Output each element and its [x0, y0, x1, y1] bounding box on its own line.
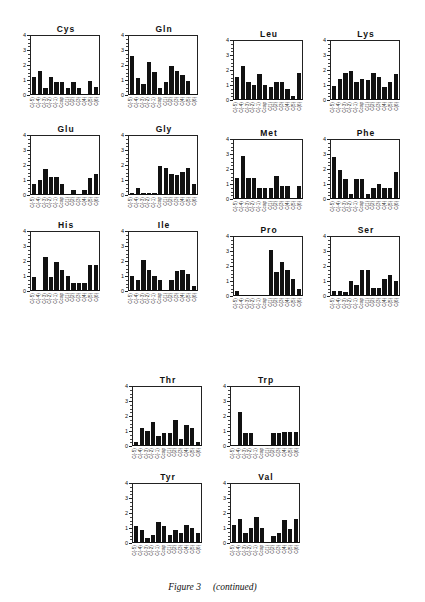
bar-c4 — [382, 188, 386, 198]
bar-c-3 — [141, 84, 145, 94]
bar-c-1 — [257, 188, 261, 198]
y-tick-label: 2 — [116, 258, 124, 264]
x-tick-label: C(-5) — [331, 298, 336, 309]
bar-c5 — [186, 274, 190, 290]
bar-c5 — [190, 528, 194, 543]
bar-c-4 — [38, 71, 42, 94]
bar-series — [332, 41, 398, 99]
x-tick-label: Ccap — [60, 197, 65, 208]
y-tick-label: 3 — [18, 147, 26, 153]
y-tick-label: 1 — [116, 177, 124, 183]
y-tick-label: 3 — [18, 47, 26, 53]
chart-panel-his: His01234C(-5)C(-4)C(-3)C(-2)C(-1)CcapC(1… — [8, 220, 103, 320]
x-tick-label: C(-5) — [31, 197, 36, 208]
bar-c-1 — [152, 276, 156, 291]
y-tick-label: 0 — [218, 443, 226, 449]
y-tick-label: 3 — [221, 151, 229, 157]
bar-series — [134, 387, 200, 445]
bar-ccap — [162, 433, 166, 445]
y-tick-label: 2 — [120, 510, 128, 516]
bar-c4 — [180, 172, 184, 194]
y-tick-label: 4 — [221, 136, 229, 142]
x-axis-labels: C(-5)C(-4)C(-3)C(-2)C(-1)CcapC(1)C(2)C(3… — [129, 97, 197, 108]
y-tick-label: 2 — [116, 162, 124, 168]
bar-c5 — [388, 82, 392, 99]
x-tick-label: C(6) — [193, 197, 198, 208]
x-tick-label: C(5) — [292, 201, 297, 212]
bar-c3 — [277, 533, 281, 542]
bar-c1 — [168, 433, 172, 445]
x-tick-label: Ccap — [263, 201, 268, 212]
y-tick-label: 3 — [116, 47, 124, 53]
plot-area — [132, 386, 202, 446]
figure-caption: Figure 3(continued) — [0, 582, 425, 592]
x-axis-labels: C(-5)C(-4)C(-3)C(-2)C(-1)CcapC(1)C(2)C(3… — [234, 298, 302, 309]
plot-area — [233, 139, 303, 199]
bar-series — [134, 484, 200, 542]
y-tick-label: 1 — [116, 77, 124, 83]
x-tick-label: C(5) — [292, 102, 297, 113]
y-tick-label: 4 — [318, 37, 326, 43]
y-tick-label: 4 — [221, 233, 229, 239]
bar-series — [232, 484, 298, 542]
y-tick-label: 0 — [318, 196, 326, 202]
x-tick-label: C(5) — [289, 545, 294, 556]
bar-c6 — [297, 289, 301, 295]
bar-c6 — [192, 184, 196, 194]
y-tick-label: 4 — [218, 480, 226, 486]
x-tick-label: C(4) — [83, 97, 88, 108]
y-tick-label: 1 — [318, 278, 326, 284]
x-axis-labels: C(-5)C(-4)C(-3)C(-2)C(-1)CcapC(1)C(2)C(3… — [231, 545, 299, 556]
chart-panel-val: Val01234C(-5)C(-4)C(-3)C(-2)C(-1)CcapC(1… — [208, 472, 303, 572]
y-tick-label: 0 — [221, 293, 229, 299]
bar-c-2 — [252, 178, 256, 198]
bar-c3 — [175, 71, 179, 94]
bar-c5 — [388, 188, 392, 198]
bar-c-2 — [151, 535, 155, 542]
bar-c5 — [88, 81, 92, 94]
bar-c3 — [277, 433, 281, 445]
bar-series — [235, 140, 301, 198]
bar-c-4 — [140, 530, 144, 542]
bar-series — [130, 36, 196, 94]
x-tick-label: C(4) — [383, 298, 388, 309]
y-tick-label: 1 — [221, 278, 229, 284]
y-tick-label: 3 — [318, 52, 326, 58]
bar-c-1 — [54, 177, 58, 194]
x-tick-label: C(5) — [187, 97, 192, 108]
bar-ccap — [360, 79, 364, 99]
x-tick-label: C(6) — [95, 293, 100, 304]
bar-c4 — [184, 525, 188, 542]
bar-c1 — [164, 168, 168, 194]
x-tick-label: C(4) — [181, 293, 186, 304]
bar-c6 — [192, 286, 196, 290]
bar-series — [332, 237, 398, 295]
bar-c2 — [371, 188, 375, 198]
bar-c-1 — [257, 74, 261, 99]
bar-c2 — [169, 66, 173, 94]
x-tick-label: C(4) — [83, 293, 88, 304]
x-tick-label: C(-5) — [31, 97, 36, 108]
x-tick-label: C(-5) — [133, 448, 138, 459]
x-tick-label: Ccap — [162, 448, 167, 459]
caption-figure-number: Figure 3 — [168, 582, 201, 592]
bar-series — [235, 41, 301, 99]
x-tick-label: C(-4) — [135, 97, 140, 108]
chart-title: Gly — [128, 124, 200, 134]
x-tick-label: C(5) — [187, 293, 192, 304]
bar-ccap — [263, 188, 267, 198]
x-tick-label: C(-5) — [129, 293, 134, 304]
y-tick-label: 2 — [221, 67, 229, 73]
bar-c1 — [366, 270, 370, 295]
y-tick-label: 3 — [221, 248, 229, 254]
y-tick-label: 1 — [318, 82, 326, 88]
x-tick-label: C(5) — [289, 448, 294, 459]
y-tick-label: 0 — [116, 288, 124, 294]
bar-c6 — [394, 281, 398, 296]
bar-ccap — [260, 528, 264, 543]
x-tick-label: C(-4) — [139, 545, 144, 556]
bar-c-2 — [147, 270, 151, 290]
bar-c1 — [366, 80, 370, 99]
y-tick-label: 4 — [120, 383, 128, 389]
x-tick-label: C(-4) — [37, 197, 42, 208]
